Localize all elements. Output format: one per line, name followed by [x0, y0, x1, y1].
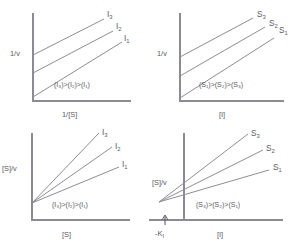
series-label-i3: I3 — [107, 10, 113, 20]
series-label-i1: I1 — [124, 34, 130, 44]
x-intercept-label: -KI — [155, 229, 164, 239]
y-axis-label-bottom-left: [S]/v — [2, 164, 17, 173]
series-label-i1-hanes: I1 — [122, 160, 128, 170]
series-label-i2-hanes: I2 — [115, 142, 121, 152]
x-axis-label-bottom-left: [S] — [62, 230, 71, 239]
series-line-i2 — [33, 31, 113, 73]
series-label-s3-cb: S3 — [251, 129, 260, 139]
series-line-i1 — [33, 42, 122, 97]
series-label-i3-hanes: I3 — [102, 128, 108, 138]
inequality-bottom-left: (I₃)>(I₂)>(I₁) — [52, 201, 88, 209]
x-axis-label-top-right: [I] — [219, 110, 225, 119]
series-label-s2: S2 — [269, 19, 278, 29]
series-line-i3-hanes — [32, 133, 99, 203]
kinetics-figure: I3 I2 I1 1/v 1/[S] (I₃)>(I₂)>(I₁) S3 S2 … — [0, 0, 293, 249]
panel-top-right: S3 S2 S1 1/v [I] (S₁)>(S₂)>(S₃) — [147, 0, 293, 124]
series-label-s1-cb: S1 — [273, 163, 282, 173]
series-line-i3 — [33, 19, 104, 55]
series-label-s1: S1 — [279, 26, 288, 36]
series-line-s3-cb — [159, 134, 248, 202]
inequality-top-right: (S₁)>(S₂)>(S₃) — [199, 81, 243, 89]
panel-bottom-right: S3 S2 S1 [S]/v [I] (S₃)>(S₂)>(S₁) -KI — [147, 125, 293, 249]
series-label-s3: S3 — [257, 10, 266, 20]
x-axis-label-top-left: 1/[S] — [62, 110, 77, 119]
y-axis-label-top-right: 1/v — [157, 49, 167, 58]
y-axis-label-bottom-right: [S]/v — [152, 178, 167, 187]
inequality-bottom-right: (S₃)>(S₂)>(S₁) — [196, 201, 240, 209]
series-label-i2: I2 — [116, 22, 122, 32]
series-label-s2-cb: S2 — [266, 144, 275, 154]
x-axis-label-bottom-right: [I] — [217, 230, 223, 239]
inequality-top-left: (I₃)>(I₂)>(I₁) — [54, 81, 90, 89]
panel-bottom-left: I3 I2 I1 [S]/v [S] (I₃)>(I₂)>(I₁) — [0, 125, 146, 249]
y-axis-label-top-left: 1/v — [10, 49, 20, 58]
series-line-s3 — [180, 18, 253, 57]
panel-top-left: I3 I2 I1 1/v 1/[S] (I₃)>(I₂)>(I₁) — [0, 0, 146, 124]
